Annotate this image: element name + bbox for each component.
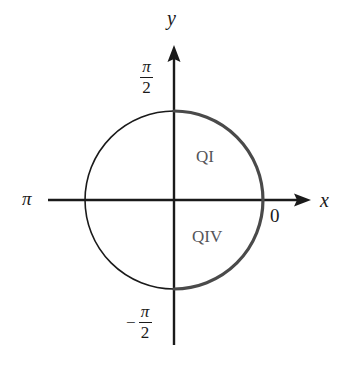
neg-pi-over-2-sign: −	[126, 314, 139, 332]
pi-label: π	[22, 189, 32, 208]
pi-over-2-denominator: 2	[142, 78, 151, 97]
quadrant-four-label: QIV	[192, 228, 222, 245]
neg-pi-over-2-numerator: π	[139, 303, 152, 322]
quadrant-one-label: QI	[196, 148, 214, 165]
pi-over-2-label: π 2	[140, 58, 153, 97]
unit-circle-figure: y x π 0 π 2 − π 2 QI QIV	[0, 0, 350, 373]
pi-over-2-fraction: π 2	[140, 58, 153, 97]
unit-circle-diagram	[0, 0, 350, 373]
neg-pi-over-2-denominator: 2	[141, 323, 150, 342]
neg-pi-over-2-label: − π 2	[126, 303, 152, 342]
y-axis-label: y	[167, 8, 176, 28]
pi-over-2-numerator: π	[140, 58, 153, 77]
neg-pi-over-2-fraction: π 2	[139, 303, 152, 342]
neg-pi-over-2-group: − π 2	[126, 303, 152, 342]
zero-label: 0	[270, 206, 280, 225]
x-axis-label: x	[320, 190, 329, 210]
